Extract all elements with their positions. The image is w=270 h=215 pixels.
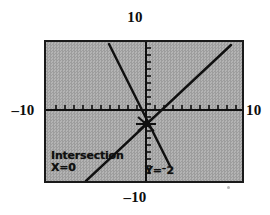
intersection-point: [143, 121, 149, 127]
screen-plot-area: Intersection X=0 Y=–2: [46, 42, 242, 181]
y-min-label: –10: [0, 189, 270, 206]
intersection-y-prefix: Y=: [145, 164, 162, 177]
graphing-calculator-figure: 10 –10 10 –10: [0, 0, 270, 215]
intersection-y-number: 2: [167, 164, 174, 177]
scan-artifact-speck: [227, 186, 230, 189]
intersection-y-value: Y=–2: [145, 162, 174, 177]
x-min-label: –10: [2, 102, 44, 119]
intersection-y-minus-sign: –: [162, 162, 166, 174]
intersection-x-value: X=0: [51, 162, 76, 174]
series-steep-negative-line: [109, 44, 170, 166]
calculator-screen[interactable]: Intersection X=0 Y=–2: [44, 40, 244, 183]
x-max-label: 10: [246, 102, 270, 119]
y-max-label: 10: [0, 9, 270, 26]
